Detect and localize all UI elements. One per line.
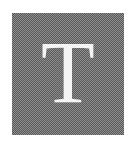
text-type-icon: T [12, 13, 124, 135]
letter-t-glyph: T [12, 29, 124, 117]
